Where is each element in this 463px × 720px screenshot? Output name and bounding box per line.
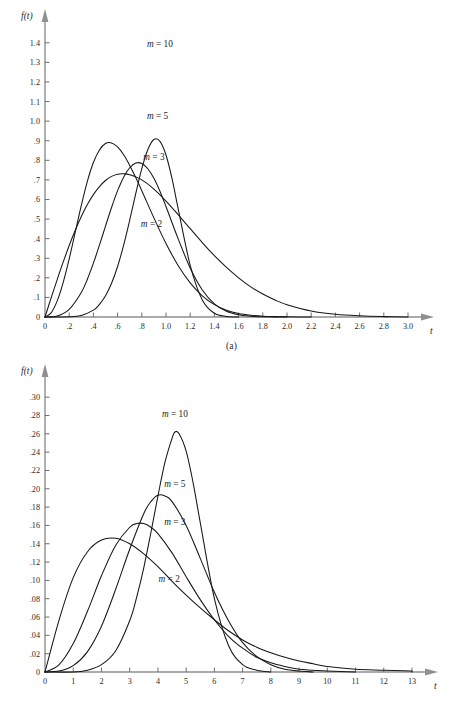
y-tick-label: 1.0 [30,117,40,126]
y-tick-label: 1.3 [30,58,40,67]
y-axis-title: f(t) [21,366,33,377]
y-tick-label: .16 [30,521,40,530]
y-tick-label: .3 [34,254,40,263]
y-tick-label: .20 [30,485,40,494]
x-tick-label: 12 [380,677,388,686]
panel-caption-a: (a) [0,341,463,351]
y-tick-label: .12 [30,558,40,567]
x-tick-label: 2.0 [282,322,292,331]
figure-panel-a: 0.2.4.6.81.01.21.41.61.82.02.22.42.62.83… [0,0,463,360]
x-tick-label: 8 [269,677,273,686]
y-tick-label: 0 [36,668,40,677]
y-tick-label: .7 [34,176,40,185]
x-tick-label: .4 [90,322,96,331]
y-axis-title: f(t) [21,11,33,22]
x-tick-label: 7 [241,677,245,686]
x-tick-label: 13 [408,677,416,686]
chart-b: 0123456789101112130.02.04.06.08.10.12.14… [0,360,463,710]
x-tick-label: 10 [323,677,331,686]
y-tick-label: .14 [30,540,40,549]
series-label: m = 10 [147,39,173,49]
density-curve [45,163,287,317]
y-tick-label: .08 [30,595,40,604]
density-curve [45,523,356,672]
y-tick-label: .5 [34,215,40,224]
x-tick-label: 2 [99,677,103,686]
y-tick-label: 1.2 [30,78,40,87]
y-tick-label: 1.4 [30,39,40,48]
y-tick-label: .26 [30,430,40,439]
x-tick-label: 9 [297,677,301,686]
x-tick-label: 2.6 [354,322,364,331]
x-tick-label: 1.8 [258,322,268,331]
x-axis-arrow-icon [425,669,438,676]
x-axis-title: t [434,681,437,691]
y-tick-label: .02 [30,650,40,659]
y-tick-label: .4 [34,235,40,244]
x-tick-label: 1 [71,677,75,686]
series-label: m = 5 [164,479,186,489]
y-tick-label: .30 [30,393,40,402]
density-curve [45,142,311,317]
y-tick-label: .28 [30,411,40,420]
density-curve [45,538,412,672]
y-tick-label: .1 [34,293,40,302]
y-tick-group: 0.02.04.06.08.10.12.14.16.18.20.22.24.26… [30,393,50,677]
x-tick-label: 2.8 [379,322,389,331]
series-label: m = 2 [141,219,163,229]
x-tick-label: 1.6 [233,322,243,331]
y-tick-label: .10 [30,576,40,585]
y-tick-label: .9 [34,137,40,146]
x-tick-label: 2.2 [306,322,316,331]
y-tick-label: 0 [36,313,40,322]
x-tick-label: 3.0 [403,322,413,331]
y-tick-group: 0.1.2.3.4.5.6.7.8.91.01.11.21.31.4 [30,39,50,322]
x-tick-label: 3 [128,677,132,686]
x-tick-label: 1.2 [185,322,195,331]
y-tick-label: .06 [30,613,40,622]
x-tick-label: 11 [352,677,360,686]
x-tick-label: 5 [184,677,188,686]
y-tick-label: .04 [30,631,40,640]
series-label: m = 5 [147,111,169,121]
x-tick-label: 4 [156,677,160,686]
x-tick-label: 0 [43,322,47,331]
y-axis-arrow-icon [42,364,49,377]
series-label: m = 10 [162,409,188,419]
x-axis-title: t [430,326,433,336]
y-tick-label: .22 [30,466,40,475]
series-label: m = 3 [164,517,186,527]
y-tick-label: .2 [34,274,40,283]
figure-panel-b: 0123456789101112130.02.04.06.08.10.12.14… [0,360,463,720]
y-axis-arrow-icon [42,9,49,22]
x-tick-label: .2 [66,322,72,331]
y-tick-label: .18 [30,503,40,512]
axes-group [42,364,438,675]
chart-a: 0.2.4.6.81.01.21.41.61.82.02.22.42.62.83… [0,0,463,345]
series-label: m = 2 [159,574,181,584]
curves-group [45,139,408,317]
series-label: m = 3 [143,152,165,162]
x-tick-label: .6 [115,322,121,331]
x-tick-label: 1.4 [209,322,219,331]
x-tick-label: 1.0 [161,322,171,331]
y-tick-label: 1.1 [30,98,40,107]
y-tick-label: .8 [34,156,40,165]
y-tick-label: .24 [30,448,40,457]
curves-group [45,431,412,672]
x-tick-label: 6 [212,677,216,686]
x-axis-arrow-icon [421,314,434,321]
y-tick-label: .6 [34,195,40,204]
x-tick-label: 2.4 [330,322,340,331]
axes-group [42,9,434,320]
x-tick-label: 0 [43,677,47,686]
x-tick-label: .8 [139,322,145,331]
x-tick-group: 012345678910111213 [43,668,416,686]
